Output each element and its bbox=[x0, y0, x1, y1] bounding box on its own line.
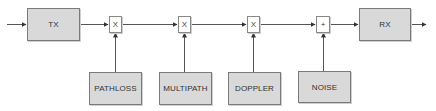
pathloss-label: PATHLOSS bbox=[94, 84, 136, 93]
plus-icon: + bbox=[321, 20, 326, 29]
noise-block: NOISE bbox=[298, 71, 351, 103]
multipath-block: MULTIPATH bbox=[159, 72, 212, 105]
adder: + bbox=[316, 16, 330, 33]
multipath-label: MULTIPATH bbox=[163, 84, 207, 93]
rx-block: RX bbox=[359, 8, 411, 41]
noise-label: NOISE bbox=[312, 83, 337, 92]
multiply-icon: X bbox=[113, 20, 118, 29]
pathloss-block: PATHLOSS bbox=[89, 72, 142, 105]
multiplier-3: X bbox=[247, 16, 260, 33]
tx-block: TX bbox=[27, 8, 80, 41]
multiply-icon: X bbox=[182, 20, 187, 29]
multiplier-1: X bbox=[109, 16, 122, 33]
rx-label: RX bbox=[379, 20, 390, 29]
tx-label: TX bbox=[48, 20, 58, 29]
multiply-icon: X bbox=[251, 20, 256, 29]
doppler-label: DOPPLER bbox=[235, 84, 274, 93]
doppler-block: DOPPLER bbox=[228, 72, 281, 105]
multiplier-2: X bbox=[178, 16, 191, 33]
